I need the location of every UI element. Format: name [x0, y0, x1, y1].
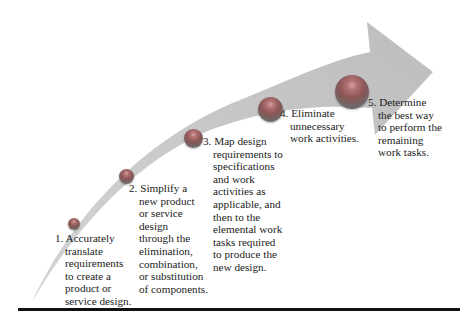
step-1-line-0: Accurately: [66, 232, 115, 244]
step-4: 4. Eliminate unnecessary work activities…: [280, 107, 359, 145]
step-3-marker: [184, 129, 203, 148]
step-3-line-5: applicable, and: [213, 198, 281, 210]
step-5-line-1: the best way: [378, 109, 434, 121]
step-3-line-7: elemental work: [213, 223, 282, 235]
step-5-line-3: remaining: [378, 134, 423, 146]
step-3-line-9: to produce the: [213, 248, 277, 260]
step-5-line-4: work tasks.: [378, 146, 429, 158]
step-5-line-0: Determine: [379, 96, 426, 108]
step-3-line-1: requirements to: [213, 148, 283, 160]
step-2-line-4: through the: [139, 232, 190, 244]
step-1-line-3: to create a: [65, 270, 111, 282]
step-2-line-0: Simplify a: [140, 182, 187, 194]
step-2-number: 2.: [129, 182, 137, 194]
step-3-number: 3.: [203, 135, 211, 147]
bottom-rule: [18, 308, 460, 311]
step-1-line-2: requirements: [65, 257, 123, 269]
step-1-number: 1.: [55, 232, 63, 244]
step-2-line-6: combination,: [139, 258, 198, 270]
step-2-line-5: elimination,: [139, 245, 193, 257]
step-5-number: 5.: [368, 96, 376, 108]
step-3-line-8: tasks required: [213, 236, 275, 248]
step-4-number: 4.: [280, 107, 288, 119]
step-1-marker: [68, 218, 80, 230]
step-1-line-4: product or: [65, 282, 111, 294]
step-4-line-2: work activities.: [290, 132, 359, 144]
step-3-line-4: activities as: [213, 185, 266, 197]
step-3-line-10: new design.: [213, 261, 266, 273]
step-2-line-7: or substitution: [139, 270, 203, 282]
step-3: 3. Map design requirements to specificat…: [203, 135, 283, 274]
step-2: 2. Simplify a new product or service des…: [129, 182, 208, 295]
step-3-line-2: specifications: [213, 160, 275, 172]
step-2-line-2: or service: [139, 207, 183, 219]
step-4-line-1: unnecessary: [290, 120, 345, 132]
step-1: 1. Accurately translate requirements to …: [55, 232, 131, 308]
step-4-line-0: Eliminate: [291, 107, 335, 119]
step-3-line-0: Map design: [214, 135, 267, 147]
step-2-line-1: new product: [139, 195, 195, 207]
step-3-line-3: and work: [213, 173, 255, 185]
step-5-marker: [335, 75, 369, 109]
step-1-line-5: service design.: [65, 295, 131, 307]
step-3-line-6: then to the: [213, 211, 260, 223]
step-5: 5. Determine the best way to perform the…: [368, 96, 442, 159]
step-1-line-1: translate: [65, 245, 103, 257]
step-2-line-3: design: [139, 220, 168, 232]
step-2-line-8: of components.: [139, 283, 208, 295]
step-5-line-2: to perform the: [378, 121, 442, 133]
